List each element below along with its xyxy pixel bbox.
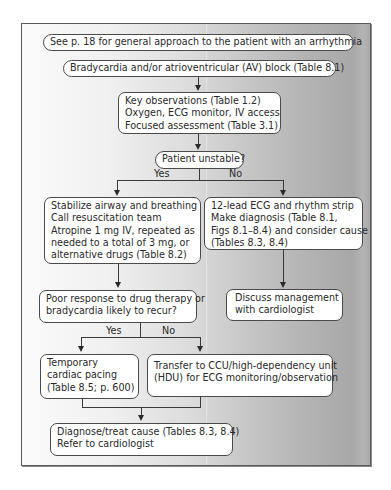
node-text: Focused assessment (Table 3.1) — [125, 120, 274, 132]
node-patient-unstable: Patient unstable? — [155, 151, 244, 169]
connector-transfer-merge — [200, 397, 201, 407]
node-diagnose-treat: Diagnose/treat cause (Tables 8.3, 8.4) R… — [50, 423, 233, 456]
node-text: Discuss management — [235, 292, 336, 304]
branch-label-no: No — [162, 325, 175, 337]
node-text: Bradycardia and/or atrioventricular (AV)… — [70, 62, 344, 73]
connector-unstable-branch — [199, 169, 200, 180]
node-key-observations: Key observations (Table 1.2) Oxygen, ECG… — [118, 92, 281, 134]
node-text: Poor response to drug therapy or — [46, 293, 190, 305]
node-temporary-pacing: Temporary cardiac pacing (Table 8.5; p. … — [40, 354, 139, 399]
node-text: (HDU) for ECG monitoring/observation — [154, 372, 326, 384]
node-stabilize: Stabilize airway and breathing Call resu… — [44, 197, 201, 264]
node-ecg-diagnosis: 12-lead ECG and rhythm strip Make diagno… — [204, 197, 363, 250]
node-text: Patient unstable? — [162, 153, 245, 164]
node-discuss-management: Discuss management with cardiologist — [226, 289, 343, 321]
node-text: Stabilize airway and breathing — [51, 200, 194, 212]
node-text: Temporary — [47, 357, 132, 369]
connector-poor-split — [81, 337, 201, 338]
node-poor-response: Poor response to drug therapy or bradyca… — [39, 290, 197, 323]
node-text: 12-lead ECG and rhythm strip — [211, 200, 356, 212]
arrow-down-icon — [114, 190, 120, 196]
branch-label-yes: Yes — [106, 325, 122, 337]
node-text: needed to a total of 3 mg, or — [51, 237, 194, 249]
node-text: (Table 8.5; p. 600) — [47, 382, 132, 394]
node-text: (Tables 8.3, 8.4) — [211, 237, 356, 249]
node-bradycardia: Bradycardia and/or atrioventricular (AV)… — [63, 60, 336, 77]
node-text: Atropine 1 mg IV, repeated as — [51, 225, 194, 237]
arrow-down-icon — [197, 346, 203, 352]
arrow-down-icon — [195, 85, 201, 91]
branch-label-no: No — [229, 168, 242, 180]
connector-ecg-discuss — [283, 250, 284, 283]
node-text: Figs 8.1–8.4) and consider cause — [211, 225, 356, 237]
arrow-down-icon — [195, 144, 201, 150]
node-text: with cardiologist — [235, 304, 336, 316]
connector-stabilize-poor — [118, 264, 119, 283]
arrow-down-icon — [280, 282, 286, 288]
node-text: Make diagnosis (Table 8.1, — [211, 212, 356, 224]
node-text: Call resuscitation team — [51, 212, 194, 224]
connector-poor-branch — [140, 323, 141, 337]
connector-pacing-merge — [82, 399, 83, 407]
arrow-down-icon — [78, 346, 84, 352]
node-transfer-ccu: Transfer to CCU/high-dependency unit (HD… — [147, 354, 333, 397]
node-text: Key observations (Table 1.2) — [125, 95, 274, 107]
arrow-down-icon — [280, 190, 286, 196]
node-text: alternative drugs (Table 8.2) — [51, 249, 194, 261]
node-text: Transfer to CCU/high-dependency unit — [154, 360, 326, 372]
node-text: Diagnose/treat cause (Tables 8.3, 8.4) — [57, 426, 226, 438]
node-text: Refer to cardiologist — [57, 438, 226, 450]
arrow-down-icon — [138, 415, 144, 421]
branch-label-yes: Yes — [154, 168, 170, 180]
node-text: See p. 18 for general approach to the pa… — [50, 36, 362, 47]
node-text: cardiac pacing — [47, 369, 132, 381]
node-general-approach: See p. 18 for general approach to the pa… — [43, 34, 354, 51]
arrow-down-icon — [115, 282, 121, 288]
node-text: Oxygen, ECG monitor, IV access — [125, 107, 274, 119]
connector-unstable-split — [117, 180, 283, 181]
node-text: bradycardia likely to recur? — [46, 305, 190, 317]
